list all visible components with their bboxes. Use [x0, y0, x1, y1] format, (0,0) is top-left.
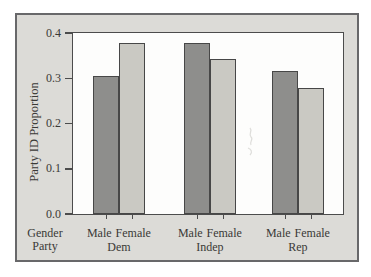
y-tick-mark	[65, 168, 72, 170]
x-tick-mark	[223, 214, 225, 219]
male-label: Male	[266, 227, 291, 240]
y-tick-label: 0.0	[27, 208, 61, 221]
figure-frame: Party ID Proportion 0.00.10.20.30.4MaleF…	[15, 13, 359, 262]
y-tick-mark	[65, 213, 72, 215]
party-row-label: Party	[21, 240, 69, 253]
y-tick-mark	[65, 78, 72, 80]
male-label: Male	[87, 227, 112, 240]
x-tick-mark	[197, 214, 199, 219]
female-label: Female	[207, 227, 242, 240]
bar-female-indep	[210, 59, 236, 214]
bar-female-dem	[119, 43, 145, 214]
smudge-mark	[245, 127, 257, 157]
female-label: Female	[295, 227, 330, 240]
x-tick-mark	[285, 214, 287, 219]
y-tick-label: 0.2	[27, 117, 61, 130]
bar-male-indep	[184, 43, 210, 214]
x-tick-mark	[311, 214, 313, 219]
bar-female-rep	[298, 88, 324, 214]
x-tick-mark	[106, 214, 108, 219]
y-tick-mark	[65, 32, 72, 34]
female-label: Female	[116, 227, 151, 240]
gender-tick-labels-rep: MaleFemale	[266, 227, 330, 240]
axis-corner-labels: Gender Party	[21, 227, 69, 253]
gender-tick-labels-indep: MaleFemale	[178, 227, 242, 240]
bar-male-dem	[93, 76, 119, 214]
male-label: Male	[178, 227, 203, 240]
y-tick-label: 0.4	[27, 27, 61, 40]
party-category-label-indep: Indep	[196, 241, 223, 254]
x-tick-mark	[132, 214, 134, 219]
party-category-label-dem: Dem	[107, 241, 130, 254]
party-category-label-rep: Rep	[288, 241, 307, 254]
gender-tick-labels-dem: MaleFemale	[87, 227, 151, 240]
y-tick-label: 0.1	[27, 162, 61, 175]
bar-male-rep	[272, 71, 298, 214]
y-tick-mark	[65, 123, 72, 125]
plot-area: 0.00.10.20.30.4MaleFemaleDemMaleFemaleIn…	[72, 32, 344, 215]
y-tick-label: 0.3	[27, 72, 61, 85]
